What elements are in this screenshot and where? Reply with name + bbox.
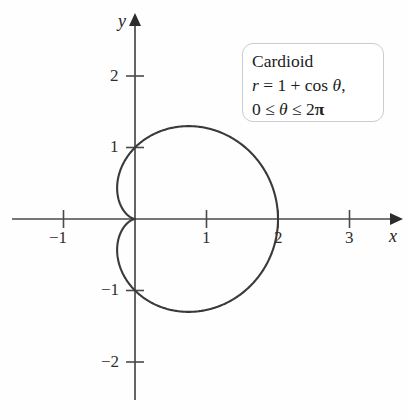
x-tick-label-1: 1 [202,228,211,248]
y-axis-arrow-icon [129,13,141,26]
x-axis-label: x [389,226,397,247]
y-tick-label-neg2: −2 [101,352,119,372]
annotation-box: Cardioid r = 1 + cos θ, 0 ≤ θ ≤ 2π [242,43,384,122]
equation-variable-r: r [252,75,259,95]
x-axis-arrow-icon [390,213,403,225]
annotation-equation: r = 1 + cos θ, [252,73,383,97]
domain-pi-symbol: π [315,99,325,119]
domain-upper-bound: ≤ 2 [292,99,315,119]
x-tick-label-neg1: −1 [49,228,67,248]
y-tick-label-neg1: −1 [101,280,119,300]
x-tick-label-2: 2 [274,228,283,248]
y-axis-label: y [118,11,126,32]
domain-theta-symbol: θ [279,99,288,119]
equation-expression: 1 + cos [277,75,328,95]
cardioid-figure: −1 1 2 3 2 1 −1 −2 y x Cardioid r = 1 + … [0,0,407,420]
equation-equals: = [263,75,273,95]
equation-comma: , [341,75,345,95]
y-tick-label-2: 2 [110,66,119,86]
x-tick-label-3: 3 [345,228,354,248]
annotation-title: Cardioid [252,49,383,73]
y-tick-label-1: 1 [110,137,119,157]
domain-lower-bound: 0 ≤ [252,99,275,119]
annotation-domain: 0 ≤ θ ≤ 2π [252,97,383,121]
equation-theta-symbol: θ [333,75,342,95]
